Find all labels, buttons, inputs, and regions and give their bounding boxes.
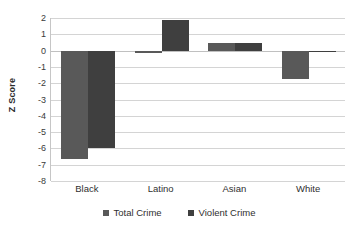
y-axis-title: Z Score xyxy=(0,0,24,190)
y-tick-label: 1 xyxy=(41,29,46,39)
bar-white-total-crime xyxy=(282,51,309,80)
chart-legend: Total CrimeViolent Crime xyxy=(0,207,358,218)
y-tick-label: -7 xyxy=(38,160,46,170)
bar-latino-total-crime xyxy=(135,51,162,53)
legend-item-total-crime[interactable]: Total Crime xyxy=(103,207,162,218)
y-tick-label: 0 xyxy=(41,46,46,56)
plot-area xyxy=(50,18,345,181)
legend-label: Total Crime xyxy=(114,207,162,218)
y-tick-label: -3 xyxy=(38,95,46,105)
y-tick-label: -8 xyxy=(38,176,46,186)
y-tick-label: 2 xyxy=(41,13,46,23)
legend-item-violent-crime[interactable]: Violent Crime xyxy=(188,207,256,218)
y-tick-label: -6 xyxy=(38,143,46,153)
bar-white-violent-crime xyxy=(309,51,336,53)
bar-group-asian xyxy=(199,18,273,181)
bar-asian-violent-crime xyxy=(235,43,262,51)
x-tick-label-black: Black xyxy=(75,183,98,194)
legend-swatch-icon xyxy=(103,210,109,216)
bar-chart: Z Score 210-1-2-3-4-5-6-7-8 BlackLatinoA… xyxy=(0,0,358,237)
y-tick-label: -2 xyxy=(38,78,46,88)
bar-black-violent-crime xyxy=(88,51,115,148)
gridline-neg8 xyxy=(51,181,345,182)
bar-group-black xyxy=(51,18,125,181)
bar-group-latino xyxy=(125,18,199,181)
x-tick-label-latino: Latino xyxy=(148,183,174,194)
legend-swatch-icon xyxy=(188,210,194,216)
y-axis-title-label: Z Score xyxy=(7,78,17,112)
x-tick-label-white: White xyxy=(296,183,320,194)
bar-group-white xyxy=(272,18,346,181)
bars-layer xyxy=(51,18,345,181)
legend-label: Violent Crime xyxy=(199,207,256,218)
y-tick-label: -4 xyxy=(38,111,46,121)
y-tick-label: -5 xyxy=(38,127,46,137)
x-axis-category-labels: BlackLatinoAsianWhite xyxy=(50,183,345,201)
x-tick-label-asian: Asian xyxy=(222,183,246,194)
bar-asian-total-crime xyxy=(208,43,235,50)
y-axis-tick-labels: 210-1-2-3-4-5-6-7-8 xyxy=(24,18,49,181)
bar-latino-violent-crime xyxy=(162,20,189,50)
y-tick-label: -1 xyxy=(38,62,46,72)
bar-black-total-crime xyxy=(61,51,88,159)
